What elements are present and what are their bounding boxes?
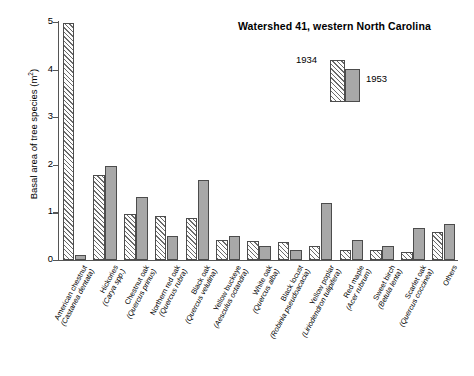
x-category-label: Others <box>441 264 459 288</box>
legend-label-1934: 1934 <box>296 54 317 65</box>
chart-figure: Watershed 41, western North Carolina Bas… <box>0 0 474 376</box>
chart-legend: 1934 1953 <box>330 56 390 102</box>
legend-swatch-1953 <box>345 69 360 102</box>
x-category-label: American chestnut(Castanea dentata) <box>53 264 98 328</box>
legend-label-1953: 1953 <box>366 73 387 84</box>
x-category-common-name: Others <box>441 264 459 288</box>
x-axis-category-labels: American chestnut(Castanea dentata)Hicko… <box>0 0 474 376</box>
legend-swatch-1934 <box>330 60 345 102</box>
